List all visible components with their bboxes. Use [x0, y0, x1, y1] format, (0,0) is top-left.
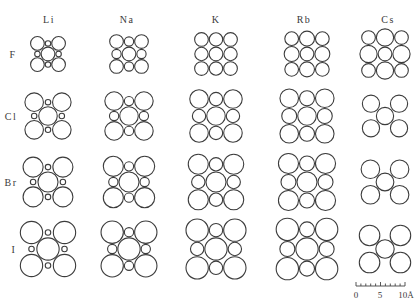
cation-circle [109, 177, 118, 186]
cation-circle [124, 126, 133, 135]
anion-circle [362, 95, 379, 112]
anion-circle [395, 64, 409, 78]
anion-circle [278, 190, 298, 210]
anion-circle [315, 124, 334, 143]
row-label-f: F [9, 49, 16, 60]
cation-circle [29, 246, 34, 251]
anion-circle [119, 172, 139, 192]
anion-circle [52, 37, 66, 51]
anion-circle [362, 64, 376, 78]
anion-circle [52, 58, 66, 72]
anion-circle [205, 238, 227, 260]
cation-circle [190, 242, 203, 255]
anion-circle [37, 238, 59, 260]
cation-circle [45, 127, 50, 132]
anion-circle [207, 107, 226, 126]
cation-circle [137, 49, 146, 58]
cation-circle [376, 107, 393, 124]
anion-circle [135, 122, 154, 141]
cation-circle [124, 162, 133, 171]
cell-kbr [188, 154, 243, 209]
anion-circle [361, 186, 380, 205]
cation-circle [300, 156, 315, 171]
anion-circle [53, 221, 75, 243]
anion-circle [31, 58, 45, 72]
anion-circle [101, 255, 123, 277]
anion-circle [53, 93, 72, 112]
cation-circle [300, 126, 315, 141]
cation-circle [300, 222, 315, 237]
anion-circle [135, 156, 155, 176]
anion-circle [359, 225, 380, 246]
anion-circle [53, 187, 73, 207]
cation-circle [45, 99, 50, 104]
scale-label: 0 [354, 290, 359, 300]
cation-circle [45, 263, 50, 268]
cell-rbbr [278, 153, 335, 210]
anion-circle [362, 120, 379, 137]
cation-circle [45, 164, 50, 169]
cation-circle [209, 62, 222, 75]
cation-circle [139, 111, 148, 120]
cation-circle [31, 113, 36, 118]
anion-circle [195, 33, 209, 47]
anion-circle [53, 157, 73, 177]
anion-circle [25, 93, 44, 112]
anion-circle [300, 47, 314, 61]
anion-circle [23, 157, 43, 177]
cation-circle [60, 179, 65, 184]
scale-label: 10Å [398, 290, 414, 300]
cation-circle [124, 193, 133, 202]
alkali-halide-ion-size-diagram: LiNaKRbCs FClBrI 0510Å [0, 0, 419, 303]
anion-circle [285, 62, 299, 76]
cation-circle [300, 261, 315, 276]
row-label-br: Br [5, 177, 18, 188]
anion-circle [135, 35, 149, 49]
anion-circle [390, 186, 409, 205]
anion-circle [53, 121, 72, 140]
cation-circle [112, 49, 121, 58]
anion-circle [195, 62, 209, 76]
column-label-li: Li [43, 14, 55, 25]
cell-lii [20, 221, 75, 276]
cation-circle [192, 175, 205, 188]
cation-circle [35, 51, 40, 56]
anion-circle [103, 188, 123, 208]
cation-circle [300, 62, 315, 77]
anion-circle [53, 254, 75, 276]
cell-nacl [105, 92, 153, 140]
scale-label: 5 [378, 290, 383, 300]
cation-circle [376, 62, 393, 79]
anion-circle [135, 221, 157, 243]
anion-circle [276, 257, 298, 279]
anion-circle [103, 156, 123, 176]
anion-circle [315, 257, 337, 279]
anion-circle [224, 62, 238, 76]
anion-circle [298, 107, 317, 126]
cation-circle [284, 47, 299, 62]
cell-licl [25, 93, 71, 139]
cation-circle [209, 158, 222, 171]
cation-circle [209, 223, 222, 236]
anion-circle [23, 187, 43, 207]
cation-circle [300, 193, 315, 208]
cation-circle [108, 244, 117, 253]
anion-circle [362, 31, 376, 45]
cation-circle [45, 62, 50, 67]
anion-circle [209, 47, 223, 61]
anion-circle [25, 121, 44, 140]
crystal-cells-grid [20, 29, 410, 280]
cell-rbi [276, 218, 338, 280]
anion-circle [186, 219, 208, 241]
cell-libr [23, 157, 73, 207]
anion-circle [105, 122, 124, 141]
anion-circle [135, 60, 149, 74]
anion-circle [224, 219, 246, 241]
cell-lif [31, 37, 66, 72]
cell-kf [195, 33, 238, 76]
anion-circle [39, 107, 58, 126]
anion-circle [390, 120, 407, 137]
anion-circle [190, 124, 209, 143]
cation-circle [376, 29, 393, 46]
anion-circle [135, 255, 157, 277]
